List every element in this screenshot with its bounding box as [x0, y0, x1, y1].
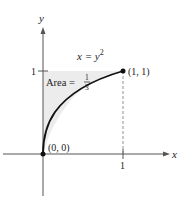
end-label: (1, 1) — [128, 66, 150, 78]
x-tick-label: 1 — [120, 160, 125, 171]
origin-point — [41, 152, 46, 157]
curve-equation: x = y2 — [76, 48, 104, 62]
exponent: 2 — [100, 48, 104, 57]
y-axis-label: y — [38, 12, 44, 24]
x-axis-label: x — [171, 148, 177, 160]
area-diagram: y x 1 1 x = y2 Area = 1 3 (0, 0) (1, 1) — [0, 0, 185, 203]
origin-label: (0, 0) — [48, 142, 70, 154]
y-axis-arrow-icon — [41, 27, 46, 34]
x-axis-arrow-icon — [163, 152, 170, 157]
area-numerator: 1 — [85, 73, 89, 82]
area-label: Area = — [46, 77, 75, 88]
y-tick-label: 1 — [31, 66, 36, 77]
area-denominator: 3 — [85, 83, 89, 92]
end-point — [121, 69, 126, 74]
